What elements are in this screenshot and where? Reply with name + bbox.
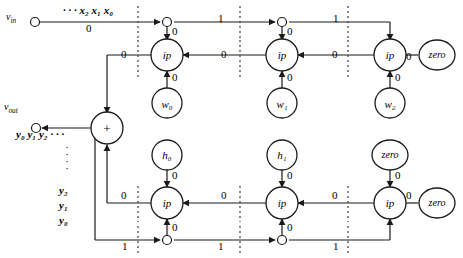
node-label-zero-top: zero	[429, 50, 446, 60]
node-label-ip-bottom-2: ip	[278, 198, 287, 209]
edge-label-h0-down: 0	[172, 170, 178, 181]
node-label-zero-bottom: zero	[429, 198, 446, 208]
input-stream-delay-label: 0	[86, 23, 92, 34]
feedback-label-y2: y₂	[59, 185, 68, 196]
node-label-h0: h₀	[162, 150, 171, 161]
edge-label-w0-up: 0	[172, 72, 178, 83]
junction-top-1	[163, 18, 172, 27]
edge-label-junction4-up: 0	[287, 222, 293, 233]
junction-bottom-2	[278, 236, 287, 245]
output-stream-label: y₀ y₁ y₂ · · ·	[16, 129, 64, 140]
edge-label-junction2-down: 0	[287, 26, 293, 37]
junction-top-2	[278, 18, 287, 27]
feedback-dots: · · · ·	[62, 144, 72, 172]
edge-label-ip3-to-ip2-top: 0	[332, 49, 338, 60]
node-label-w0: w₀	[161, 99, 172, 110]
junction-bottom-1	[163, 236, 172, 245]
diagram-canvas: vin vout · · · x₂ x₁ x₀ 0 y₀ y₁ y₂ · · ·…	[0, 0, 463, 258]
input-stream-label: · · · x₂ x₁ x₀	[63, 5, 113, 16]
edge-label-junction3-up: 0	[172, 222, 178, 233]
input-terminal-label: vin	[6, 12, 16, 25]
edge-label-ip2b-to-ip1b: 0	[221, 190, 227, 201]
node-label-ip-top-2: ip	[278, 50, 287, 61]
terminal-input-port	[31, 18, 40, 27]
node-label-ip-bottom-3: ip	[386, 198, 395, 209]
edge-label-top-rail-2: 1	[333, 13, 339, 24]
node-label-ip-top-1: ip	[163, 50, 172, 61]
node-label-ip-top-3: ip	[386, 50, 395, 61]
node-label-w2: w₂	[384, 99, 395, 110]
edge-label-w1-up: 0	[287, 72, 293, 83]
edge-label-zero-to-ip3-top: 0	[406, 51, 412, 62]
edge-label-ip2-to-ip1-top: 0	[221, 49, 227, 60]
node-label-ip-bottom-1: ip	[163, 198, 172, 209]
edge-label-top-rail-1: 1	[218, 13, 224, 24]
edge-label-zero-down: 0	[395, 170, 401, 181]
node-label-w1: w₁	[276, 99, 287, 110]
node-label-adder: +	[103, 122, 110, 135]
edge-label-h1-down: 0	[287, 170, 293, 181]
feedback-label-y0: y₀	[59, 215, 68, 226]
edge-label-bottom-rail-3: 1	[333, 241, 339, 252]
node-label-h1: h₁	[277, 150, 286, 161]
edge-label-ip1b-out: 0	[121, 190, 127, 201]
diagram-graphics	[0, 0, 463, 258]
edge-label-ip3b-to-ip2b: 0	[332, 190, 338, 201]
edge-label-ip1-out-top: 0	[121, 49, 127, 60]
edge-label-bottom-rail-2: 1	[218, 241, 224, 252]
edge-label-bottom-rail-1: 1	[122, 241, 128, 252]
feedback-label-y1: y₁	[59, 200, 68, 211]
node-label-zero-mid: zero	[382, 150, 399, 160]
edge-label-w2-up: 0	[395, 72, 401, 83]
output-terminal-label: vout	[4, 102, 18, 115]
edge-label-zero-to-ip3b: 0	[406, 190, 412, 201]
edge-label-junction1-down: 0	[172, 26, 178, 37]
